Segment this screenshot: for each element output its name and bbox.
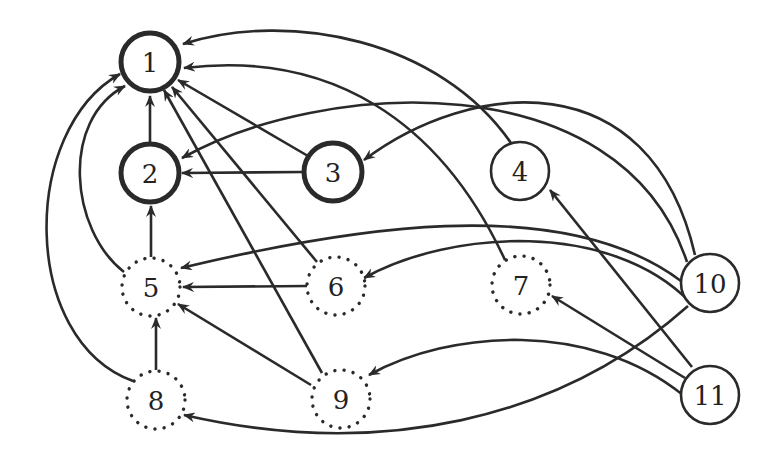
node-label-6: 6 [328, 272, 345, 302]
node-label-10: 10 [693, 269, 726, 299]
node-label-9: 9 [333, 385, 350, 415]
node-11: 11 [681, 366, 739, 424]
node-6: 6 [307, 257, 365, 315]
node-label-4: 4 [512, 157, 529, 187]
node-4: 4 [491, 142, 549, 200]
node-label-11: 11 [693, 381, 726, 411]
node-label-2: 2 [142, 159, 159, 189]
node-2: 2 [121, 144, 179, 202]
node-10: 10 [681, 254, 739, 312]
edge-10-to-8 [184, 306, 688, 433]
edge-5-to-1 [80, 86, 125, 272]
edge-4-to-1 [183, 31, 511, 143]
node-5: 5 [122, 258, 180, 316]
node-8: 8 [127, 371, 185, 429]
node-7: 7 [492, 256, 550, 314]
edge-11-to-4 [550, 190, 692, 367]
node-label-8: 8 [148, 386, 165, 416]
directed-graph: 1234567108911 [0, 0, 781, 455]
node-3: 3 [304, 143, 362, 201]
node-label-1: 1 [142, 48, 159, 78]
node-label-3: 3 [325, 158, 342, 188]
node-9: 9 [312, 370, 370, 428]
node-label-7: 7 [513, 271, 530, 301]
edge-9-to-1 [164, 90, 322, 373]
node-label-5: 5 [143, 273, 160, 303]
edge-6-to-5 [183, 286, 307, 287]
node-1: 1 [121, 33, 179, 91]
edge-11-to-7 [552, 296, 685, 378]
